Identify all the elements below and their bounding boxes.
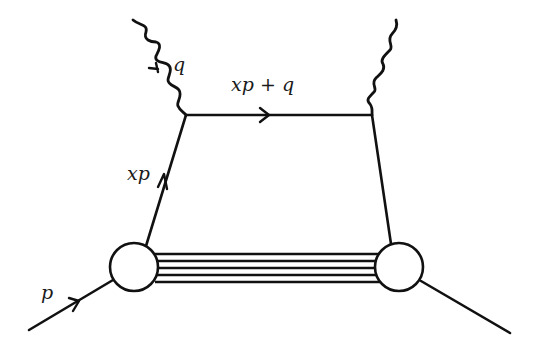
label-q: q: [173, 55, 185, 74]
feynman-diagram: [0, 0, 536, 348]
photon-out-line: [368, 20, 397, 115]
left-blob: [110, 243, 158, 291]
photon-in-marker-icon: [149, 63, 158, 72]
label-xp-plus-q: xp + q: [231, 75, 294, 94]
quark-line-right: [372, 115, 391, 244]
label-xp: xp: [127, 164, 150, 183]
spectator-lines: [155, 254, 380, 282]
right-blob: [375, 243, 423, 291]
arrow-up-icon: [158, 174, 167, 189]
label-p: p: [41, 283, 53, 302]
proton-out-line: [421, 281, 510, 333]
